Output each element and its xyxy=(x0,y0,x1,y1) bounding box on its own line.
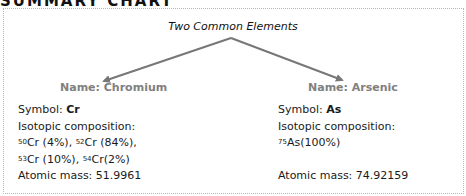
chromium-details: Symbol: Cr Isotopic composition: 50Cr (4… xyxy=(18,102,141,185)
symbol-label: Symbol: xyxy=(18,103,66,116)
isotopic-label: Isotopic composition: xyxy=(18,119,141,136)
atomic-mass: Atomic mass: 74.92159 xyxy=(278,168,408,185)
spacer xyxy=(278,152,408,169)
isotope-text: Cr (4%), xyxy=(27,136,76,149)
atomic-mass: Atomic mass: 51.9961 xyxy=(18,168,141,185)
isotope-text: Cr (10%), xyxy=(27,153,83,166)
isotope-mass: 50 xyxy=(18,138,27,146)
isotope-mass: 52 xyxy=(76,138,85,146)
isotopes-line: 75As(100%) xyxy=(278,135,408,152)
symbol-value: Cr xyxy=(66,103,80,116)
isotope-text: Cr(2%) xyxy=(92,153,130,166)
element-name-chromium: Name: Chromium xyxy=(60,81,167,94)
isotope-mass: 75 xyxy=(278,138,287,146)
isotopic-label: Isotopic composition: xyxy=(278,119,408,136)
isotope-mass: 53 xyxy=(18,155,27,163)
symbol-line: Symbol: As xyxy=(278,102,408,119)
isotope-mass: 54 xyxy=(83,155,92,163)
symbol-label: Symbol: xyxy=(278,103,326,116)
element-name-arsenic: Name: Arsenic xyxy=(308,81,398,94)
symbol-value: As xyxy=(326,103,341,116)
symbol-line: Symbol: Cr xyxy=(18,102,141,119)
isotope-text: Cr (84%), xyxy=(85,136,137,149)
isotopes-line: 50Cr (4%), 52Cr (84%), xyxy=(18,135,141,152)
isotopes-line: 53Cr (10%), 54Cr(2%) xyxy=(18,152,141,169)
isotope-text: As(100%) xyxy=(287,136,340,149)
arsenic-details: Symbol: As Isotopic composition: 75As(10… xyxy=(278,102,408,185)
